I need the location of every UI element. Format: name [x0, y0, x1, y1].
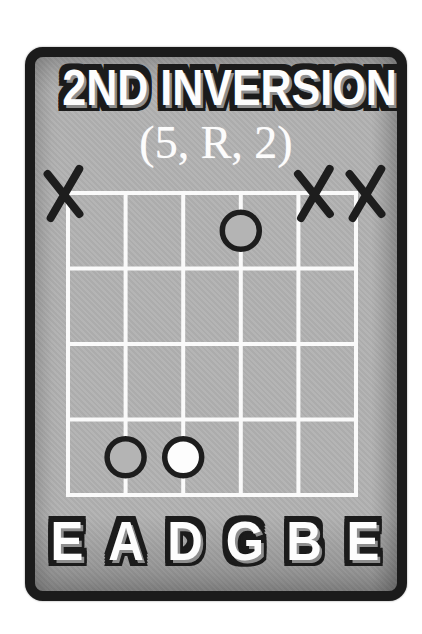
string-labels-row: E A D G B E [45, 509, 385, 573]
chord-grid-svg [35, 143, 387, 545]
string-label-low-e: E [48, 509, 87, 573]
scanned-page: 2ND INVERSION (5, R, 2) E A D G B E [0, 0, 422, 634]
chord-card: 2ND INVERSION (5, R, 2) E A D G B E [25, 47, 407, 601]
chord-card-inner: 2ND INVERSION (5, R, 2) E A D G B E [35, 57, 397, 591]
string-label-d: D [166, 509, 205, 573]
root-note-marker [165, 439, 202, 476]
string-label-high-e: E [344, 509, 383, 573]
diagram-title: 2ND INVERSION [62, 61, 397, 115]
string-label-a: A [107, 509, 146, 573]
string-label-b: B [284, 509, 323, 573]
note-marker [222, 212, 259, 249]
note-marker [107, 439, 144, 476]
string-label-g: G [225, 509, 264, 573]
title-row: 2ND INVERSION [35, 61, 397, 115]
